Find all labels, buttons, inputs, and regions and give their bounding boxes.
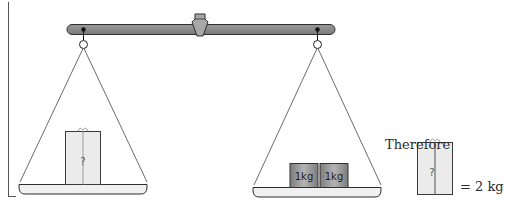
svg-text:1kg: 1kg: [295, 171, 314, 182]
weight-1kg-b: 1kg: [320, 164, 348, 188]
unknown-box-left: ?: [66, 128, 101, 184]
unknown-box-label: ?: [80, 156, 85, 167]
right-hanger: [254, 27, 381, 185]
right-pan: [253, 188, 381, 198]
left-bracket: [9, 2, 17, 197]
svg-text:1kg: 1kg: [325, 171, 344, 182]
balance-scale-diagram: ? 1kg 1kg ?: [0, 0, 510, 211]
therefore-heading: Therefore: [385, 137, 450, 152]
left-pan: [19, 185, 147, 195]
weight-1kg-a: 1kg: [290, 164, 318, 188]
conclusion-box-label: ?: [429, 167, 434, 178]
result-equation: = 2 kg: [460, 179, 504, 194]
